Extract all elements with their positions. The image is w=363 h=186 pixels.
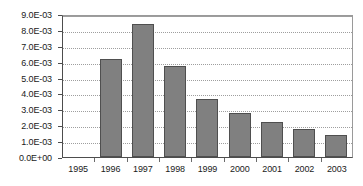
- y-axis: 0.0E+001.0E-032.0E-033.0E-034.0E-035.0E-…: [0, 0, 58, 186]
- x-tick-mark: [321, 158, 322, 162]
- bar-slot: [95, 16, 127, 157]
- bar-2000[interactable]: [229, 113, 251, 157]
- x-axis: 199519961997199819992000200120022003: [62, 164, 353, 174]
- bar-2002[interactable]: [293, 129, 315, 157]
- x-tick-label-1997: 1997: [127, 164, 159, 174]
- bar-slot: [63, 16, 95, 157]
- bar-2003[interactable]: [325, 135, 347, 157]
- bar-1996[interactable]: [100, 59, 122, 158]
- y-tick-label: 4.0E-03: [21, 89, 52, 99]
- bar-slot: [256, 16, 288, 157]
- y-tick-label: 3.0E-03: [21, 105, 52, 115]
- bar-slot: [127, 16, 159, 157]
- x-tick-label-2001: 2001: [256, 164, 288, 174]
- bar-1999[interactable]: [196, 99, 218, 157]
- bar-1998[interactable]: [164, 66, 186, 157]
- x-tick-mark: [94, 158, 95, 162]
- x-tick-mark: [256, 158, 257, 162]
- x-tick-label-1996: 1996: [94, 164, 126, 174]
- bars-layer: [63, 16, 352, 157]
- x-tick-mark: [224, 158, 225, 162]
- bar-slot: [288, 16, 320, 157]
- y-tick-label: 1.0E-03: [21, 137, 52, 147]
- y-tick-label: 6.0E-03: [21, 58, 52, 68]
- x-tick-mark: [191, 158, 192, 162]
- y-tick-label: 0.0E+00: [19, 153, 52, 163]
- y-tick-label: 8.0E-03: [21, 26, 52, 36]
- x-axis-ticks: [62, 158, 353, 163]
- bar-slot: [159, 16, 191, 157]
- x-tick-label-1995: 1995: [62, 164, 94, 174]
- x-tick-mark: [288, 158, 289, 162]
- x-tick-mark: [127, 158, 128, 162]
- plot-area: [62, 15, 353, 158]
- x-tick-label-2000: 2000: [224, 164, 256, 174]
- y-tick-label: 9.0E-03: [21, 10, 52, 20]
- x-tick-label-1998: 1998: [159, 164, 191, 174]
- bar-2001[interactable]: [261, 122, 283, 157]
- bar-slot: [191, 16, 223, 157]
- bar-chart: 0.0E+001.0E-032.0E-033.0E-034.0E-035.0E-…: [0, 0, 363, 186]
- x-tick-label-1999: 1999: [191, 164, 223, 174]
- y-tick-label: 2.0E-03: [21, 121, 52, 131]
- y-tick-label: 5.0E-03: [21, 74, 52, 84]
- y-tick-label: 7.0E-03: [21, 42, 52, 52]
- bar-slot: [320, 16, 352, 157]
- x-tick-label-2003: 2003: [321, 164, 353, 174]
- x-tick-mark: [159, 158, 160, 162]
- bar-slot: [224, 16, 256, 157]
- x-tick-label-2002: 2002: [288, 164, 320, 174]
- bar-1997[interactable]: [132, 24, 154, 157]
